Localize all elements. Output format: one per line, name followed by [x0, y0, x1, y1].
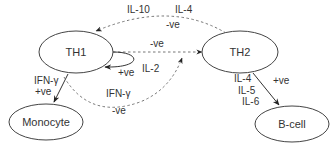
edge-th2-to-bcell: IL-4 IL-5 IL-6 +ve: [234, 73, 290, 107]
bcell-label: B-cell: [278, 118, 306, 130]
th1-th2-cytokine-diagram: IL-10 IL-4 -ve -ve IL-2 +ve IFN-γ +ve IF…: [0, 0, 331, 148]
dashed-arrow: [96, 16, 226, 33]
th2-label: TH2: [230, 46, 251, 58]
edge-label-positive: +ve: [118, 67, 135, 78]
node-th1: TH1: [39, 31, 113, 73]
edge-th2-to-th1-top: IL-10 IL-4 -ve: [96, 4, 226, 33]
edge-label-il4: IL-4: [234, 73, 252, 84]
edge-label-il5: IL-5: [238, 85, 256, 96]
node-bcell: B-cell: [255, 106, 329, 142]
monocyte-label: Monocyte: [22, 116, 70, 128]
edge-label-positive: +ve: [35, 86, 52, 97]
edge-label-il2: IL-2: [142, 63, 160, 74]
edge-label-ifn-gamma: IFN-γ: [106, 88, 130, 99]
node-th2: TH2: [202, 31, 278, 73]
edge-label-ifn-gamma: IFN-γ: [34, 75, 58, 86]
edge-label-il6: IL-6: [242, 96, 260, 107]
edge-th1-to-monocyte: IFN-γ +ve: [34, 74, 68, 102]
edge-th1-to-th2-straight: -ve: [113, 38, 202, 52]
node-monocyte: Monocyte: [9, 104, 83, 140]
edge-label-negative: -ve: [150, 38, 164, 49]
edge-th1-self-il2: IL-2 +ve: [105, 52, 160, 78]
edge-label-positive: +ve: [273, 75, 290, 86]
edge-label-negative: -ve: [166, 19, 180, 30]
edge-label-il10: IL-10: [127, 4, 150, 15]
edge-label-il4: IL-4: [175, 4, 193, 15]
th1-label: TH1: [66, 46, 87, 58]
edge-label-negative: -ve: [112, 105, 126, 116]
